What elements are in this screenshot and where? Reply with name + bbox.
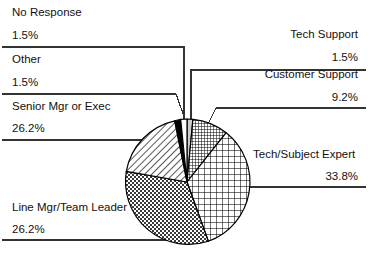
label-customer-support-value: 9.2%: [332, 91, 358, 104]
leader-line-customer-support: [206, 108, 366, 128]
label-line-mgr-name: Line Mgr/Team Leader: [12, 201, 127, 214]
label-customer-support-name: Customer Support: [265, 68, 358, 81]
label-senior-mgr-name: Senior Mgr or Exec: [12, 100, 110, 113]
label-tech-support-value: 1.5%: [332, 51, 358, 64]
chart-canvas: No Response 1.5% Other 1.5% Senior Mgr o…: [0, 0, 368, 269]
label-senior-mgr-value: 26.2%: [12, 122, 45, 135]
label-tech-subject-expert-name: Tech/Subject Expert: [253, 148, 355, 161]
label-other-value: 1.5%: [12, 76, 38, 89]
label-other-name: Other: [12, 53, 41, 66]
label-line-mgr-value: 26.2%: [12, 223, 45, 236]
label-tech-support-name: Tech Support: [290, 28, 358, 41]
label-no-response-name: No Response: [12, 6, 82, 19]
label-no-response-value: 1.5%: [12, 29, 38, 42]
label-tech-subject-expert-value: 33.8%: [325, 170, 358, 183]
